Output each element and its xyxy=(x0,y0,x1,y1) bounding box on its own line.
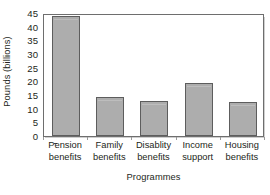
bar-slot xyxy=(88,15,132,136)
bar xyxy=(140,101,168,136)
bar xyxy=(96,97,124,136)
x-axis-category-label-line: benefits xyxy=(220,152,264,164)
x-axis-category-label-line: support xyxy=(176,152,220,164)
x-axis-tick-mark xyxy=(264,137,265,140)
x-axis-category-label-line: benefits xyxy=(87,152,131,164)
x-axis-category-label: Housingbenefits xyxy=(220,140,264,163)
x-axis-category-label: Incomesupport xyxy=(176,140,220,163)
y-axis-tick-label: 20 xyxy=(14,76,38,88)
y-axis-tick-label: 25 xyxy=(14,63,38,75)
bar-slot xyxy=(132,15,176,136)
bar-series xyxy=(44,15,263,136)
x-axis-category-label-line: Housing xyxy=(220,140,264,152)
x-axis-tick-mark xyxy=(176,137,177,140)
x-axis-tick-mark xyxy=(87,137,88,140)
x-axis-category-label-line: benefits xyxy=(131,152,175,164)
bar-chart-figure: Pounds (billions) 051015202530354045 Pen… xyxy=(0,0,270,195)
x-axis-category-label-line: benefits xyxy=(43,152,87,164)
bar xyxy=(229,102,257,136)
y-axis-tick-label: 0 xyxy=(14,131,38,143)
x-axis-category-label: Familybenefits xyxy=(87,140,131,163)
y-axis-tick-labels: 051015202530354045 xyxy=(14,9,38,137)
x-axis-tick-mark xyxy=(43,137,44,140)
x-axis-category-labels: PensionbenefitsFamilybenefitsDisablitybe… xyxy=(43,140,264,168)
bar-slot xyxy=(221,15,265,136)
x-axis-category-label: Disablitybenefits xyxy=(131,140,175,163)
y-axis-title: Pounds (billions) xyxy=(0,4,14,139)
x-axis-tick-mark xyxy=(220,137,221,140)
x-axis-title: Programmes xyxy=(43,172,264,182)
bar xyxy=(185,83,213,136)
x-axis-category-label-line: Income xyxy=(176,140,220,152)
x-axis-category-label-line: Disablity xyxy=(131,140,175,152)
bar-slot xyxy=(44,15,88,136)
y-axis-tick-label: 30 xyxy=(14,49,38,61)
y-axis-tick-label: 15 xyxy=(14,90,38,102)
x-axis-tick-mark xyxy=(131,137,132,140)
y-axis-tick-label: 35 xyxy=(14,35,38,47)
y-axis-tick-label: 40 xyxy=(14,22,38,34)
bar-slot xyxy=(177,15,221,136)
plot-area xyxy=(43,14,264,137)
y-axis-tick-label: 10 xyxy=(14,104,38,116)
x-axis-category-label: Pensionbenefits xyxy=(43,140,87,163)
x-axis-category-label-line: Family xyxy=(87,140,131,152)
y-axis-tick-label: 5 xyxy=(14,117,38,129)
y-axis-tick-label: 45 xyxy=(14,8,38,20)
bar xyxy=(52,16,80,136)
x-axis-category-label-line: Pension xyxy=(43,140,87,152)
